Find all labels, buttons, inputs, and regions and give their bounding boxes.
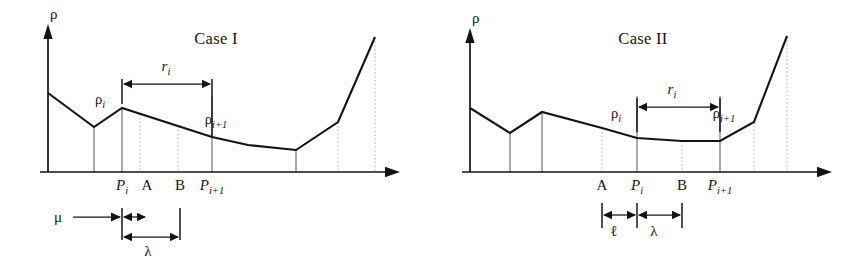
- case-1-gridlines: [94, 37, 375, 172]
- density-curve: [470, 36, 787, 141]
- tick-label-1: Pi: [630, 177, 643, 196]
- dimension-lambda-label: λ: [144, 243, 152, 259]
- case-2-gridlines: [510, 36, 787, 172]
- dimension-ell-arrowhead-left: [603, 211, 612, 219]
- dimension-r_i-label: ri: [162, 58, 171, 77]
- y-axis-label: ρ: [472, 10, 480, 26]
- dimension-lambda-arrowhead-left: [123, 233, 132, 241]
- dimension-mu-arrowhead-right: [111, 213, 121, 222]
- case-1-dimensions: riμλ: [54, 58, 212, 259]
- case-2-svg: ρ riℓλ Case IIAPiBPi+1ρiρi+1: [432, 0, 864, 274]
- panel-title: Case I: [194, 29, 238, 48]
- tick-label-0: A: [597, 177, 608, 193]
- tick-label-2: B: [175, 177, 185, 193]
- tick-label-0: Pi: [115, 177, 128, 196]
- curve-label-0: ρi: [95, 91, 105, 110]
- case-2-dimensions: riℓλ: [602, 81, 720, 239]
- dimension-r_i-label: ri: [668, 81, 677, 100]
- curve-label-1: ρi+1: [713, 105, 736, 124]
- dimension-lambda-arrowhead-right: [672, 211, 681, 219]
- dimension-lambda-arrowhead-left: [638, 211, 647, 219]
- dimension-r_i-arrowhead-left: [123, 80, 132, 88]
- x-axis-arrowhead: [385, 167, 400, 177]
- dimension-lambda-label: λ: [650, 223, 658, 239]
- y-axis-arrowhead: [43, 24, 52, 39]
- dimension-mu_gap-arrowhead-right: [137, 213, 146, 221]
- case-2-curve: [470, 36, 787, 141]
- tick-label-3: Pi+1: [707, 177, 732, 196]
- dimension-r_i-arrowhead-left: [638, 103, 647, 111]
- panel-case-1: ρ riμλ Case IPiABPi+1ρiρi+1: [0, 0, 432, 274]
- case-2-labels: Case IIAPiBPi+1ρiρi+1: [597, 29, 736, 196]
- dimension-ell-arrowhead-right: [627, 211, 636, 219]
- figure-container: ρ riμλ Case IPiABPi+1ρiρi+1 ρ riℓλ Case …: [0, 0, 864, 274]
- dimension-mu-label: μ: [54, 209, 62, 225]
- curve-label-1: ρi+1: [205, 111, 228, 130]
- curve-label-0: ρi: [611, 105, 621, 124]
- x-axis-arrowhead: [817, 167, 832, 177]
- dimension-ell-label: ℓ: [610, 223, 617, 239]
- y-axis-label: ρ: [50, 6, 58, 22]
- dimension-lambda-arrowhead-right: [170, 233, 179, 241]
- y-axis-arrowhead: [465, 28, 474, 43]
- tick-label-2: B: [677, 177, 687, 193]
- tick-label-1: A: [142, 177, 153, 193]
- case-1-svg: ρ riμλ Case IPiABPi+1ρiρi+1: [0, 0, 432, 274]
- panel-case-2: ρ riℓλ Case IIAPiBPi+1ρiρi+1: [432, 0, 864, 274]
- panel-title: Case II: [618, 29, 667, 48]
- dimension-r_i-arrowhead-right: [202, 80, 211, 88]
- dimension-mu_gap-arrowhead-left: [123, 213, 132, 221]
- tick-label-3: Pi+1: [199, 177, 224, 196]
